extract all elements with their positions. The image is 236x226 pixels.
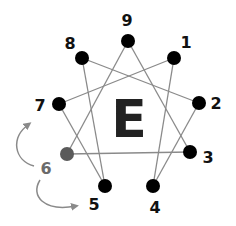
node-label-9: 9 [121,11,132,30]
center-letter: E [111,89,147,149]
arrow-6-to-5 [37,180,76,207]
node-label-1: 1 [180,33,191,52]
node-9 [121,34,135,48]
arrow-6-to-7 [17,124,34,166]
node-6 [60,147,74,161]
node-label-6: 6 [40,159,51,178]
node-label-3: 3 [202,148,213,167]
node-2 [192,96,206,110]
node-8 [75,51,89,65]
node-7 [52,97,66,111]
node-3 [183,145,197,159]
node-label-5: 5 [88,195,99,214]
node-label-4: 4 [149,198,160,217]
node-5 [98,179,112,193]
node-label-2: 2 [210,94,221,113]
enneagram-diagram: E 912345678 [0,0,236,226]
node-label-8: 8 [64,34,75,53]
node-4 [146,179,160,193]
node-1 [167,51,181,65]
node-label-7: 7 [34,96,45,115]
